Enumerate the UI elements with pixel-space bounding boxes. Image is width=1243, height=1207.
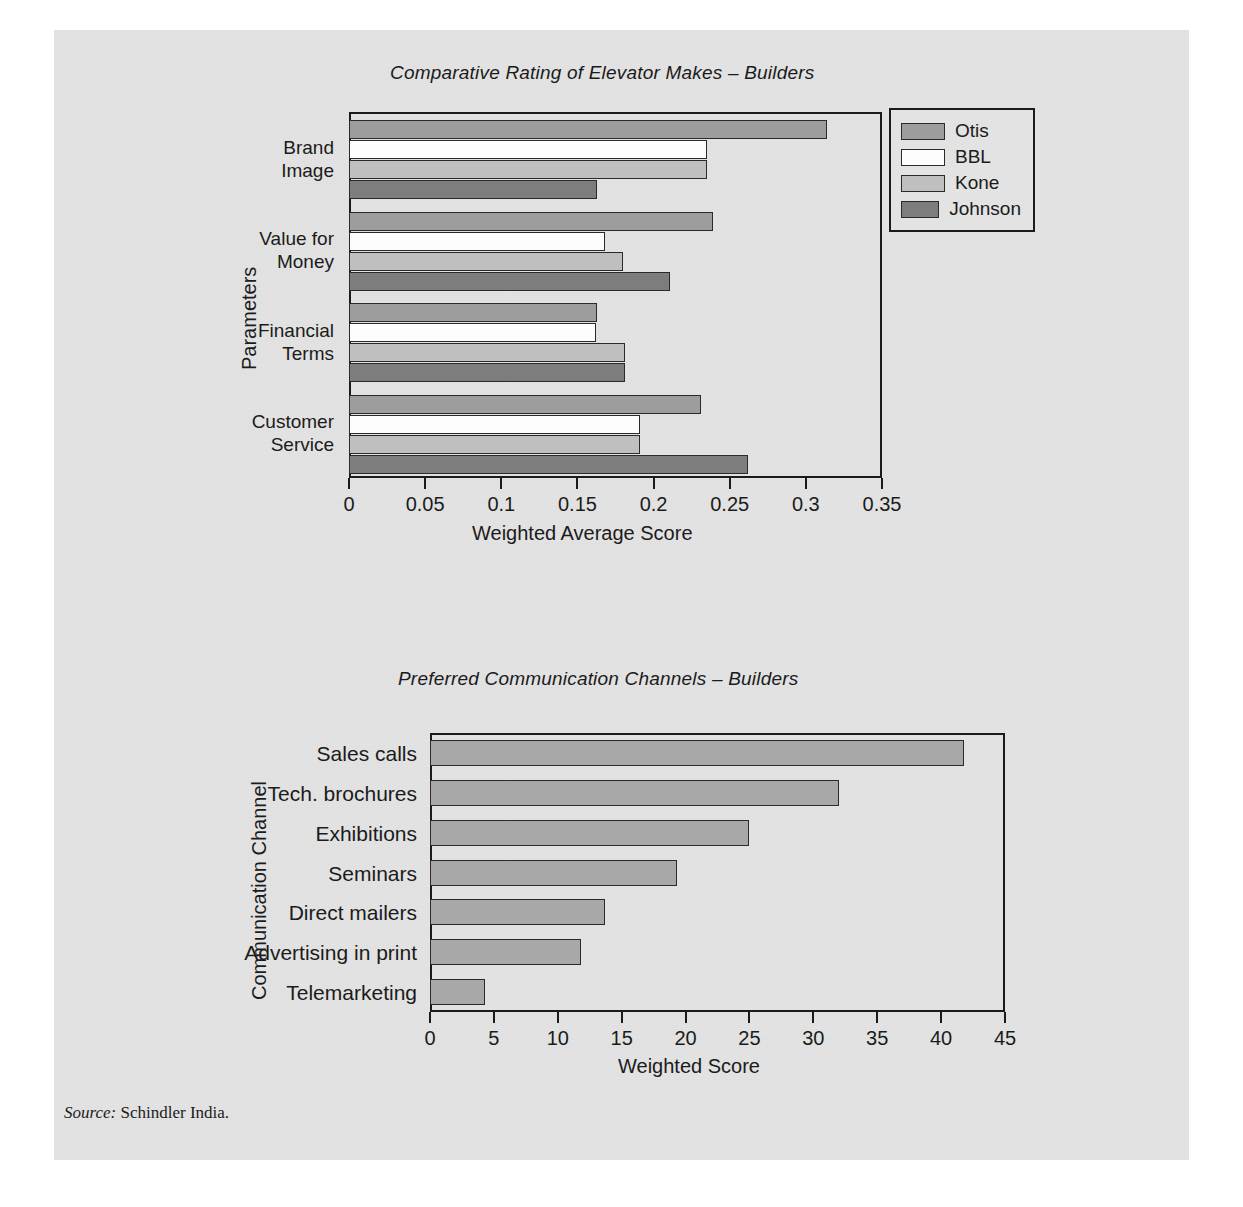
- chart1-bar: [349, 303, 597, 322]
- chart2-bar: [430, 860, 677, 886]
- chart2-y-axis-title: Communication Channel: [248, 781, 271, 1000]
- chart1-x-tick-label: 0: [309, 493, 389, 516]
- chart1-bar: [349, 395, 701, 414]
- chart2-x-tick: [493, 1012, 495, 1023]
- chart1-x-tick: [424, 478, 426, 489]
- chart2-x-axis-title: Weighted Score: [618, 1055, 760, 1078]
- chart2-bar: [430, 780, 839, 806]
- source-label: Source:: [64, 1103, 116, 1122]
- chart1-legend-swatch: [901, 149, 945, 166]
- chart1-x-tick: [805, 478, 807, 489]
- chart1-legend-item: BBL: [901, 144, 1021, 170]
- chart1-category-label: FinancialTerms: [119, 319, 334, 365]
- source-value: Schindler India.: [121, 1103, 230, 1122]
- chart2-category-label: Advertising in print: [140, 941, 417, 964]
- chart1-legend-swatch: [901, 175, 945, 192]
- chart1-x-tick-label: 0.1: [461, 493, 541, 516]
- chart1-legend-label: BBL: [955, 146, 991, 168]
- chart1-title: Comparative Rating of Elevator Makes – B…: [390, 62, 814, 84]
- chart1-x-tick: [348, 478, 350, 489]
- chart1-bar: [349, 415, 640, 434]
- chart1-legend-label: Otis: [955, 120, 989, 142]
- chart2-x-tick-label: 45: [965, 1027, 1045, 1050]
- chart1-x-tick-label: 0.2: [614, 493, 694, 516]
- chart1-bar: [349, 212, 713, 231]
- chart2-x-tick: [429, 1012, 431, 1023]
- chart1-bar: [349, 160, 707, 179]
- chart1-x-tick: [500, 478, 502, 489]
- chart2-category-label: Tech. brochures: [140, 782, 417, 805]
- chart1-bar: [349, 272, 670, 291]
- chart1-legend-item: Otis: [901, 118, 1021, 144]
- chart1-x-tick-label: 0.25: [690, 493, 770, 516]
- chart1-x-axis-title: Weighted Average Score: [472, 522, 693, 545]
- chart1-category-label: CustomerService: [119, 410, 334, 456]
- figure-page: Comparative Rating of Elevator Makes – B…: [0, 0, 1243, 1207]
- chart1-bar: [349, 363, 625, 382]
- chart1-bar: [349, 180, 597, 199]
- chart1-legend: OtisBBLKoneJohnson: [889, 108, 1035, 232]
- chart1-bar: [349, 232, 605, 251]
- chart1-bar: [349, 435, 640, 454]
- chart1-x-tick: [881, 478, 883, 489]
- chart2-category-label: Exhibitions: [140, 822, 417, 845]
- chart1-legend-swatch: [901, 123, 945, 140]
- chart1-category-label: BrandImage: [119, 136, 334, 182]
- chart1-x-tick: [653, 478, 655, 489]
- chart1-bar: [349, 343, 625, 362]
- chart1-bar: [349, 323, 596, 342]
- chart2-bar: [430, 740, 964, 766]
- chart1-bar: [349, 120, 827, 139]
- chart2-x-tick: [876, 1012, 878, 1023]
- chart2-category-label: Telemarketing: [140, 981, 417, 1004]
- chart1-x-tick-label: 0.35: [842, 493, 922, 516]
- chart1-legend-item: Kone: [901, 170, 1021, 196]
- chart1-y-axis-title: Parameters: [238, 267, 261, 370]
- chart1-x-tick: [576, 478, 578, 489]
- chart1-bar: [349, 252, 623, 271]
- chart2-category-label: Direct mailers: [140, 901, 417, 924]
- chart2-x-tick: [557, 1012, 559, 1023]
- chart1-x-tick-label: 0.05: [385, 493, 465, 516]
- chart2-bar: [430, 939, 581, 965]
- chart2-title: Preferred Communication Channels – Build…: [398, 668, 798, 690]
- chart1-category-label: Value forMoney: [119, 227, 334, 273]
- chart1-x-tick: [729, 478, 731, 489]
- chart1-legend-swatch: [901, 201, 939, 218]
- chart1-legend-label: Johnson: [949, 198, 1021, 220]
- chart2-category-label: Seminars: [140, 862, 417, 885]
- chart2-x-tick: [748, 1012, 750, 1023]
- chart2-x-tick: [1004, 1012, 1006, 1023]
- source-note: Source: Schindler India.: [64, 1103, 229, 1123]
- chart2-bar: [430, 899, 605, 925]
- chart2-x-tick: [812, 1012, 814, 1023]
- chart1-x-tick-label: 0.15: [537, 493, 617, 516]
- chart2-bar: [430, 979, 485, 1005]
- chart1-bar: [349, 140, 707, 159]
- chart2-bar: [430, 820, 749, 846]
- chart2-x-tick: [940, 1012, 942, 1023]
- chart1-legend-label: Kone: [955, 172, 999, 194]
- chart2-category-label: Sales calls: [140, 742, 417, 765]
- chart1-bar: [349, 455, 748, 474]
- chart2-x-tick: [685, 1012, 687, 1023]
- chart1-legend-item: Johnson: [901, 196, 1021, 222]
- chart2-x-tick: [621, 1012, 623, 1023]
- chart1-x-tick-label: 0.3: [766, 493, 846, 516]
